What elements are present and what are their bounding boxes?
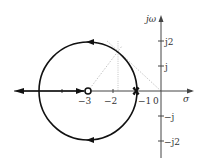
tick-label-j2: j2 (164, 37, 174, 47)
tick-label-minus3: −3 (78, 96, 92, 106)
real-axis-arrow-icon (187, 89, 194, 94)
tick-label-0: 0 (153, 96, 159, 106)
zero-marker-icon (85, 88, 91, 94)
arrow-right-icon (76, 88, 84, 94)
tick-label-minus1: −1 (138, 96, 151, 106)
root-locus-diagram: jω σ −3 −2 −1 0 j2 j −j −j2 (0, 0, 201, 168)
real-axis-label: σ (183, 94, 190, 104)
imag-axis-label: jω (144, 14, 157, 24)
arrow-bottom-icon (86, 137, 94, 143)
arrow-left-icon (14, 88, 24, 94)
tick-label-minus2: −2 (104, 96, 117, 106)
tick-label-minus-j: −j (164, 112, 174, 122)
guide-lines (88, 40, 161, 91)
imag-axis-arrow-icon (159, 15, 164, 22)
tick-label-j: j (164, 62, 168, 72)
tick-label-minus-j2: −j2 (164, 137, 180, 147)
arrow-top-icon (86, 39, 94, 45)
